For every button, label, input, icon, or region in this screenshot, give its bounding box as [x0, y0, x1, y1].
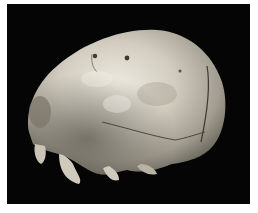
skull-illustration	[7, 4, 250, 204]
skull-photo	[7, 4, 250, 204]
